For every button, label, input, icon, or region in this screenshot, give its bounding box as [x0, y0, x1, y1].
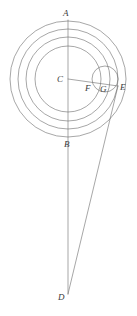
geometry-canvas [0, 0, 137, 316]
point-label-e: E [120, 83, 126, 92]
geometry-diagram: A B C D E F G [0, 0, 137, 316]
point-label-c: C [57, 75, 63, 84]
point-label-b: B [64, 140, 70, 149]
point-label-f: F [85, 84, 91, 93]
point-label-a: A [63, 9, 69, 18]
point-label-d: D [58, 293, 65, 302]
point-label-g: G [100, 85, 107, 94]
